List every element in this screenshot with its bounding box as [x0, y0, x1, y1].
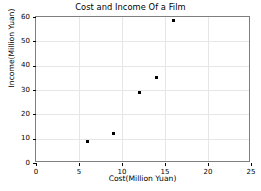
- x-axis-label: Cost(Million Yuan): [35, 174, 250, 184]
- x-tick-mark: [251, 163, 252, 166]
- data-point: [86, 140, 89, 143]
- y-tick-mark: [33, 163, 36, 164]
- data-point: [172, 19, 175, 22]
- x-tick-mark: [36, 163, 37, 166]
- y-tick-mark: [33, 114, 36, 115]
- data-point: [155, 76, 158, 79]
- gridline-horizontal: [36, 66, 249, 67]
- chart-title: Cost and Income Of a Film: [0, 2, 261, 13]
- y-axis-label: Income(Million Yuan): [7, 0, 17, 121]
- y-tick-label: 0: [8, 159, 30, 168]
- data-point: [138, 91, 141, 94]
- gridline-horizontal: [36, 90, 249, 91]
- x-tick-mark: [208, 163, 209, 166]
- y-tick-mark: [33, 41, 36, 42]
- y-tick-label: 10: [8, 134, 30, 143]
- y-tick-mark: [33, 139, 36, 140]
- y-tick-mark: [33, 66, 36, 67]
- y-tick-mark: [33, 17, 36, 18]
- gridline-horizontal: [36, 41, 249, 42]
- gridline-horizontal: [36, 139, 249, 140]
- y-tick-mark: [33, 90, 36, 91]
- plot-area: 0510152025 0102030405060: [35, 16, 250, 162]
- x-tick-mark: [165, 163, 166, 166]
- gridline-horizontal: [36, 114, 249, 115]
- data-point: [112, 132, 115, 135]
- x-tick-mark: [79, 163, 80, 166]
- x-tick-mark: [122, 163, 123, 166]
- scatter-chart-figure: Cost and Income Of a Film 0510152025 010…: [0, 0, 261, 191]
